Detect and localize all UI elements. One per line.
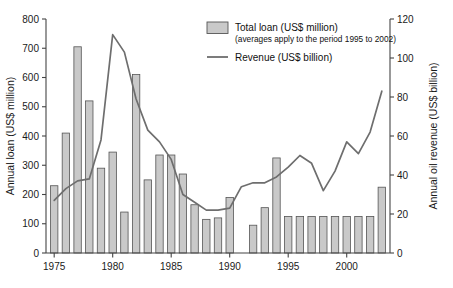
left-tick-label-700: 700: [22, 43, 39, 54]
left-tick-label-500: 500: [22, 101, 39, 112]
bar-1998: [320, 216, 327, 253]
bar-1990: [226, 197, 233, 253]
right-tick-label-100: 100: [397, 53, 414, 64]
left-axis-title: Annual loan (US$ million): [4, 77, 16, 195]
bar-1996: [296, 216, 303, 253]
left-tick-label-800: 800: [22, 14, 39, 25]
left-tick-label-600: 600: [22, 72, 39, 83]
bar-1989: [214, 218, 221, 253]
left-tick-label-400: 400: [22, 131, 39, 142]
left-tick-label-200: 200: [22, 189, 39, 200]
bar-1995: [285, 216, 292, 253]
legend-swatch-loan: [207, 22, 228, 34]
x-tick-label-1995: 1995: [277, 261, 300, 272]
bar-1994: [273, 158, 280, 253]
legend-label-loan: Total loan (US$ million): [235, 22, 338, 33]
right-tick-label-80: 80: [397, 92, 409, 103]
left-tick-label-300: 300: [22, 160, 39, 171]
right-tick-label-40: 40: [397, 170, 409, 181]
bar-2001: [355, 216, 362, 253]
right-tick-label-120: 120: [397, 14, 414, 25]
x-tick-label-1975: 1975: [43, 261, 66, 272]
chart-container: 0100200300400500600700800020406080100120…: [0, 0, 453, 288]
bar-1993: [261, 208, 268, 253]
right-tick-label-0: 0: [397, 248, 403, 259]
x-tick-label-2000: 2000: [336, 261, 359, 272]
legend-sublabel-loan: (averages apply to the period 1995 to 20…: [235, 34, 396, 44]
bar-1999: [331, 216, 338, 253]
bar-1979: [97, 168, 104, 253]
x-tick-label-1980: 1980: [102, 261, 125, 272]
dual-axis-bar-line-chart: 0100200300400500600700800020406080100120…: [0, 0, 453, 288]
bar-1992: [249, 225, 256, 253]
bar-1997: [308, 216, 315, 253]
x-tick-label-1985: 1985: [160, 261, 183, 272]
bar-2003: [378, 187, 385, 253]
bar-1988: [203, 219, 210, 253]
bar-2002: [366, 216, 373, 253]
bar-1984: [156, 155, 163, 253]
right-axis-title: Annual oil revenue (US$ billion): [427, 62, 439, 209]
right-tick-label-20: 20: [397, 209, 409, 220]
bar-1977: [74, 47, 81, 253]
bar-1987: [191, 205, 198, 253]
bar-1976: [62, 133, 69, 253]
x-tick-label-1990: 1990: [219, 261, 242, 272]
legend-label-revenue: Revenue (US$ billion): [235, 52, 332, 63]
bar-2000: [343, 216, 350, 253]
bar-1975: [50, 186, 57, 253]
bar-1981: [121, 212, 128, 253]
right-tick-label-60: 60: [397, 131, 409, 142]
bar-1983: [144, 180, 151, 253]
left-tick-label-100: 100: [22, 218, 39, 229]
bar-1980: [109, 152, 116, 253]
left-tick-label-0: 0: [33, 248, 39, 259]
